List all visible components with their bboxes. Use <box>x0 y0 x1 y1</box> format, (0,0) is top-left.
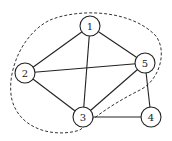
edge-1-2 <box>25 26 90 73</box>
graph-diagram: 12345 <box>0 0 172 141</box>
node-1: 1 <box>80 16 100 36</box>
edge-1-3 <box>83 26 90 117</box>
node-label: 3 <box>80 112 86 123</box>
node-5: 5 <box>135 53 155 73</box>
node-label: 5 <box>142 58 148 69</box>
node-label: 4 <box>148 112 154 123</box>
edge-2-3 <box>25 73 83 117</box>
node-3: 3 <box>73 107 93 127</box>
node-label: 1 <box>87 21 93 32</box>
edge-2-5 <box>25 63 145 73</box>
node-label: 2 <box>22 68 28 79</box>
edge-3-5 <box>83 63 145 117</box>
node-4: 4 <box>141 107 161 127</box>
node-2: 2 <box>15 63 35 83</box>
